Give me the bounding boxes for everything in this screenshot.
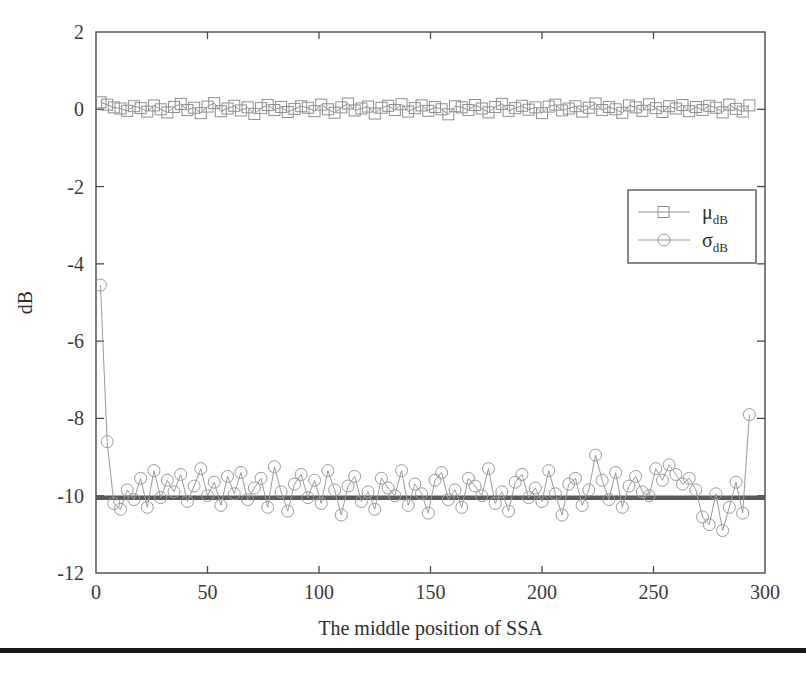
y-tick-label: -6 xyxy=(67,330,84,352)
y-tick-label: -10 xyxy=(57,485,84,507)
legend-box xyxy=(628,190,756,263)
y-tick-label: 0 xyxy=(74,98,84,120)
y-tick-label: -8 xyxy=(67,407,84,429)
y-tick-label: -2 xyxy=(67,176,84,198)
y-tick-label: -4 xyxy=(67,253,84,275)
x-tick-label: 150 xyxy=(416,581,446,603)
y-tick-label: 2 xyxy=(74,21,84,43)
legend[interactable]: μdBσdB xyxy=(628,190,756,263)
x-tick-label: 50 xyxy=(198,581,218,603)
y-tick-label: -12 xyxy=(57,562,84,584)
x-tick-label: 100 xyxy=(304,581,334,603)
chart-svg: 05010015020025030020-2-4-6-8-10-12The mi… xyxy=(0,0,806,673)
x-axis-title: The middle position of SSA xyxy=(318,617,543,640)
x-tick-label: 250 xyxy=(639,581,669,603)
x-tick-label: 300 xyxy=(750,581,780,603)
figure-container: 05010015020025030020-2-4-6-8-10-12The mi… xyxy=(0,0,806,673)
x-tick-label: 0 xyxy=(91,581,101,603)
legend-label-subscript: dB xyxy=(713,240,729,255)
bottom-rule xyxy=(0,648,806,653)
legend-label-subscript: dB xyxy=(713,212,729,227)
x-tick-label: 200 xyxy=(527,581,557,603)
y-axis-title: dB xyxy=(14,291,36,314)
